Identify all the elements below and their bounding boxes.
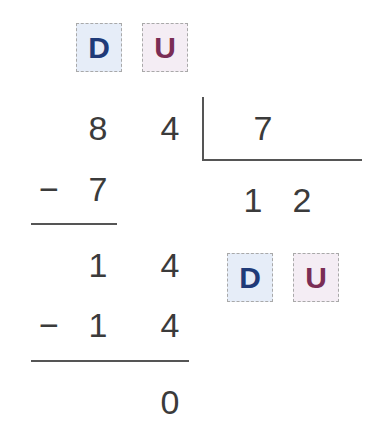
bring-down-units: 4 (155, 248, 185, 282)
underline-1 (31, 223, 117, 225)
division-bracket-vertical (202, 97, 204, 161)
subtract-2-units: 4 (155, 308, 185, 342)
minus-sign-2: − (34, 308, 64, 342)
quotient-units-box: U (293, 253, 339, 302)
subtract-1-units: 7 (83, 172, 113, 206)
underline-2 (31, 360, 189, 362)
bring-down-tens: 1 (83, 248, 113, 282)
units-header-box: U (142, 23, 188, 72)
remainder: 0 (155, 385, 185, 419)
division-bracket-horizontal (202, 159, 362, 161)
dividend-units: 4 (155, 111, 185, 145)
divisor: 7 (248, 111, 278, 145)
quotient-units: 2 (287, 183, 317, 217)
tens-header-box: D (76, 23, 122, 72)
quotient-tens: 1 (238, 183, 268, 217)
quotient-tens-box: D (227, 253, 273, 302)
minus-sign-1: − (34, 172, 64, 206)
subtract-2-tens: 1 (83, 308, 113, 342)
dividend-tens: 8 (83, 111, 113, 145)
